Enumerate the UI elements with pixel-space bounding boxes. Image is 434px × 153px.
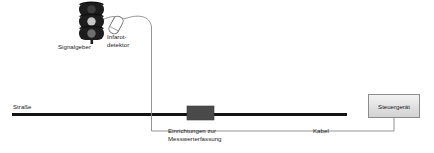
traffic-detection-diagram: Straße Signalgeber Infarot- detektor Ein… xyxy=(0,0,434,153)
infrared-detector-label-line1: Infarot- xyxy=(107,33,129,41)
induction-loop-block xyxy=(187,106,214,120)
control-unit-label: Steuergerät xyxy=(378,103,410,110)
signal-head-label: Signalgeber xyxy=(58,43,91,51)
measurement-equipment-label-line1: Einrichtungen zur xyxy=(168,127,222,135)
cable-label: Kabel xyxy=(313,127,329,135)
road-label: Straße xyxy=(13,103,32,111)
measurement-equipment-label-line2: Messwerterfassung xyxy=(168,135,222,143)
traffic-light-icon xyxy=(79,2,104,44)
measurement-equipment-label: Einrichtungen zur Messwerterfassung xyxy=(168,127,222,144)
control-unit-box: Steuergerät xyxy=(368,94,420,118)
infrared-detector-label: Infarot- detektor xyxy=(107,33,129,49)
infrared-detector-label-line2: detektor xyxy=(107,41,129,49)
